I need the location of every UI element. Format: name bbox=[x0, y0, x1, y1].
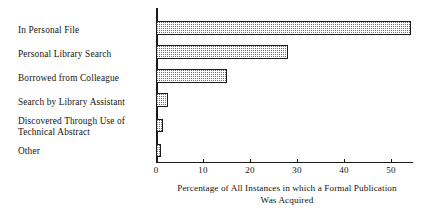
x-tick-50 bbox=[391, 159, 392, 163]
bar-in-personal-file bbox=[156, 21, 411, 35]
bar-personal-library-search bbox=[156, 45, 288, 59]
x-tick-0 bbox=[156, 159, 157, 163]
category-label-discovered-through-abstract: Discovered Through Use of Technical Abst… bbox=[18, 116, 156, 138]
category-label-search-by-library-assistant: Search by Library Assistant bbox=[18, 97, 156, 108]
x-tick-10 bbox=[203, 159, 204, 163]
x-axis-line bbox=[156, 162, 413, 163]
category-label-other: Other bbox=[18, 146, 156, 157]
x-tick-label-20: 20 bbox=[245, 165, 254, 175]
x-tick-label-10: 10 bbox=[198, 165, 207, 175]
bar-discovered-through-abstract bbox=[156, 119, 163, 132]
x-axis-title-line-1: Percentage of All Instances in which a F… bbox=[177, 183, 397, 193]
x-tick-label-40: 40 bbox=[339, 165, 348, 175]
x-tick-40 bbox=[344, 159, 345, 163]
x-axis-title-line-2: Was Acquired bbox=[156, 195, 418, 207]
category-label-personal-library-search: Personal Library Search bbox=[18, 49, 156, 60]
x-tick-label-50: 50 bbox=[386, 165, 395, 175]
bar-other bbox=[156, 144, 161, 157]
bar-borrowed-from-colleague bbox=[156, 69, 227, 83]
x-axis-title: Percentage of All Instances in which a F… bbox=[156, 183, 418, 206]
x-tick-30 bbox=[297, 159, 298, 163]
category-label-in-personal-file: In Personal File bbox=[18, 25, 156, 36]
x-tick-20 bbox=[250, 159, 251, 163]
category-label-borrowed-from-colleague: Borrowed from Colleague bbox=[18, 73, 156, 84]
bar-chart: In Personal File Personal Library Search… bbox=[0, 0, 427, 215]
category-axis-labels: In Personal File Personal Library Search… bbox=[18, 8, 152, 162]
x-tick-label-0: 0 bbox=[154, 165, 159, 175]
x-tick-label-30: 30 bbox=[292, 165, 301, 175]
plot-area: 0 10 20 30 40 50 bbox=[156, 8, 413, 162]
bar-search-by-library-assistant bbox=[156, 93, 168, 107]
